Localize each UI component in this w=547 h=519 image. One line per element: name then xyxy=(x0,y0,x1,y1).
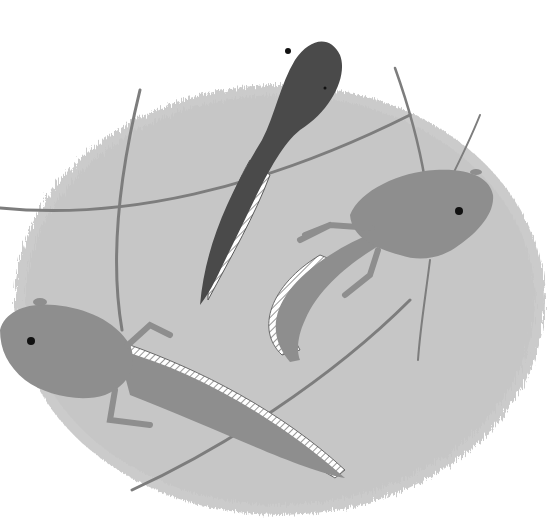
tadpole-illustration xyxy=(0,0,547,519)
illustration-canvas xyxy=(0,0,547,519)
